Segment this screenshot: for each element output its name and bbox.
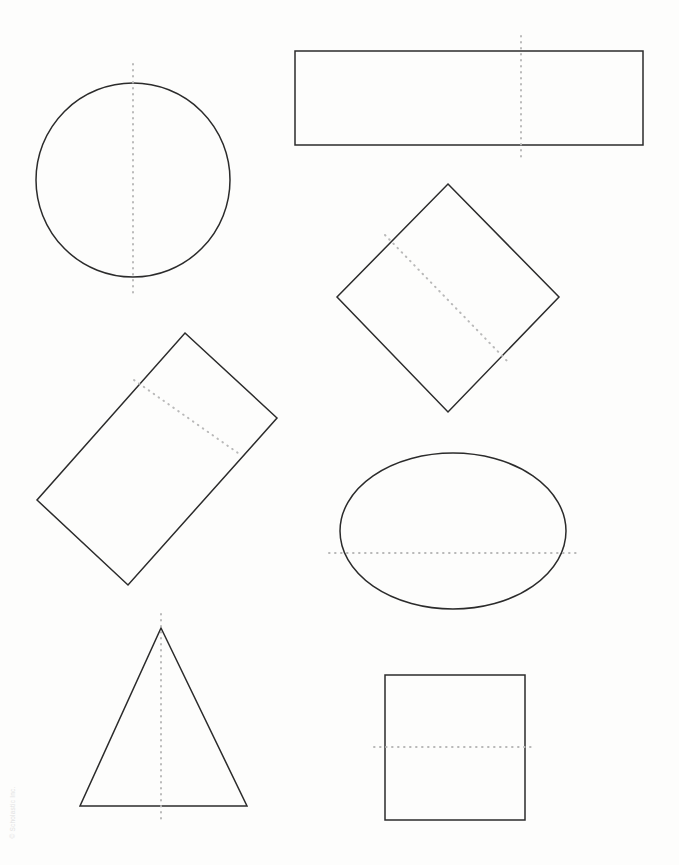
shape-group-wide-rectangle bbox=[295, 36, 643, 157]
shape-group-circle bbox=[36, 64, 230, 296]
shape-group-diamond bbox=[337, 184, 559, 412]
wide-rectangle-outline bbox=[295, 51, 643, 145]
square-outline bbox=[385, 675, 525, 820]
worksheet-page: © Scholastic Inc. bbox=[0, 0, 679, 865]
shape-group-ellipse bbox=[329, 453, 579, 609]
diamond-outline bbox=[337, 184, 559, 412]
copyright-notice: © Scholastic Inc. bbox=[9, 749, 16, 839]
shapes-canvas bbox=[0, 0, 679, 865]
shape-group-triangle bbox=[80, 614, 247, 823]
shape-group-rotated-rectangle bbox=[37, 333, 277, 585]
shape-group-square bbox=[374, 675, 533, 820]
triangle-outline bbox=[80, 628, 247, 806]
ellipse-outline bbox=[340, 453, 566, 609]
rotated-rectangle-outline bbox=[37, 333, 277, 585]
rotated-rectangle-symmetry-line bbox=[134, 380, 238, 453]
diamond-symmetry-line bbox=[385, 235, 510, 364]
